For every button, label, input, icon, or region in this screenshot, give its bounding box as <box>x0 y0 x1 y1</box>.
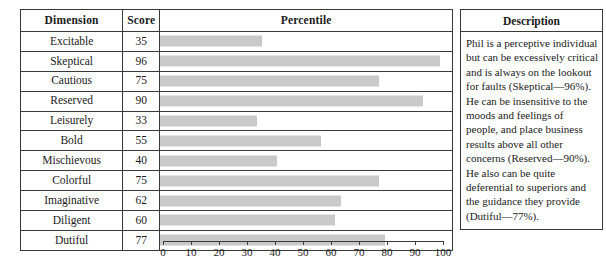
axis-tick-label: 50 <box>298 247 309 258</box>
axis-tick <box>247 241 248 245</box>
percentile-bar <box>160 155 277 166</box>
table-row: Colorful75 <box>21 171 453 191</box>
axis-tick-label: 90 <box>410 247 421 258</box>
percentile-cell <box>160 51 453 71</box>
description-paragraph: He also can be quite deferential to supe… <box>466 166 598 224</box>
percentile-bar <box>160 175 379 186</box>
axis-tick <box>331 241 332 245</box>
score-value: 33 <box>123 111 160 131</box>
percentile-cell <box>160 131 453 151</box>
table-header: Dimension Score Percentile <box>21 10 453 32</box>
column-header-dimension: Dimension <box>21 10 123 32</box>
axis-tick <box>303 241 304 245</box>
percentile-bar <box>160 135 320 146</box>
table-row: Diligent60 <box>21 211 453 231</box>
axis-tick-label: 0 <box>160 247 166 258</box>
table-row: Bold55 <box>21 131 453 151</box>
percentile-bar <box>160 215 335 226</box>
score-value: 77 <box>123 230 160 250</box>
table-row: Skeptical96 <box>21 51 453 71</box>
table-row: Cautious75 <box>21 71 453 91</box>
dimension-label: Reserved <box>21 91 123 111</box>
score-value: 75 <box>123 171 160 191</box>
score-value: 96 <box>123 51 160 71</box>
axis-tick-label: 100 <box>435 247 452 258</box>
score-value: 60 <box>123 211 160 231</box>
table-row: Leisurely33 <box>21 111 453 131</box>
table-row: Reserved90 <box>21 91 453 111</box>
percentile-bar <box>160 76 379 87</box>
description-paragraph: Phil is a perceptive individual but can … <box>466 36 598 94</box>
percentile-bar <box>160 56 440 67</box>
dimension-label: Imaginative <box>21 191 123 211</box>
axis-tick <box>219 241 220 245</box>
score-value: 90 <box>123 91 160 111</box>
dimension-label: Colorful <box>21 171 123 191</box>
percentile-axis: 0102030405060708090100 <box>163 241 443 267</box>
description-paragraph: He can be insensitive to the moods and f… <box>466 94 598 166</box>
axis-tick-label: 70 <box>354 247 365 258</box>
column-header-percentile: Percentile <box>160 10 453 32</box>
percentile-bar <box>160 116 256 127</box>
percentile-bar <box>160 195 341 206</box>
description-header: Description <box>461 10 602 32</box>
axis-tick <box>163 241 164 245</box>
table-row: Imaginative62 <box>21 191 453 211</box>
percentile-table: Dimension Score Percentile Excitable35Sk… <box>20 9 453 251</box>
table-row: Excitable35 <box>21 32 453 52</box>
score-value: 55 <box>123 131 160 151</box>
score-value: 40 <box>123 151 160 171</box>
percentile-cell <box>160 171 453 191</box>
axis-tick <box>359 241 360 245</box>
percentile-bar <box>160 36 262 47</box>
percentile-cell <box>160 151 453 171</box>
percentile-cell <box>160 191 453 211</box>
axis-tick <box>191 241 192 245</box>
dimension-label: Skeptical <box>21 51 123 71</box>
dimension-label: Excitable <box>21 32 123 52</box>
score-value: 35 <box>123 32 160 52</box>
axis-tick-label: 40 <box>270 247 281 258</box>
axis-tick <box>387 241 388 245</box>
percentile-cell <box>160 71 453 91</box>
percentile-cell <box>160 111 453 131</box>
percentile-bar <box>160 96 423 107</box>
table-body: Excitable35Skeptical96Cautious75Reserved… <box>21 32 453 251</box>
axis-tick <box>443 241 444 245</box>
dimension-label: Cautious <box>21 71 123 91</box>
dimension-label: Diligent <box>21 211 123 231</box>
axis-tick <box>275 241 276 245</box>
dimension-label: Leisurely <box>21 111 123 131</box>
table-row: Mischievous40 <box>21 151 453 171</box>
percentile-cell <box>160 32 453 52</box>
axis-tick-label: 60 <box>326 247 337 258</box>
axis-tick-label: 30 <box>242 247 253 258</box>
axis-tick-label: 10 <box>186 247 197 258</box>
dimension-label: Mischievous <box>21 151 123 171</box>
description-body: Phil is a perceptive individual but can … <box>461 32 602 229</box>
column-header-score: Score <box>123 10 160 32</box>
score-value: 75 <box>123 71 160 91</box>
axis-tick <box>415 241 416 245</box>
percentile-cell <box>160 91 453 111</box>
percentile-cell <box>160 211 453 231</box>
axis-tick-label: 20 <box>214 247 225 258</box>
dimension-label: Bold <box>21 131 123 151</box>
axis-tick-label: 80 <box>382 247 393 258</box>
table-header-row: Dimension Score Percentile <box>21 10 453 32</box>
score-value: 62 <box>123 191 160 211</box>
dimension-label: Dutiful <box>21 230 123 250</box>
description-panel: Description Phil is a perceptive individ… <box>460 9 603 230</box>
